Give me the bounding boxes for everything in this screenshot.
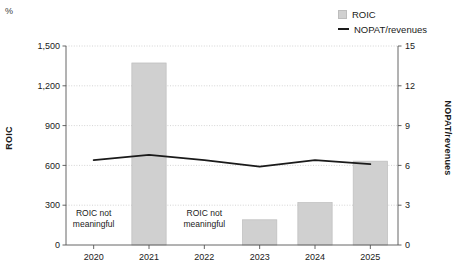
y-tick-label-right-9: 9 [405, 121, 410, 131]
y-tick-label-left-0: 0 [55, 240, 60, 250]
y-tick-label-left-1500: 1,500 [37, 41, 60, 51]
y-tick-label-left-600: 600 [45, 161, 60, 171]
plot-area: 03006009001,2001,50003691215202020212022… [0, 0, 454, 275]
y-tick-label-left-900: 900 [45, 121, 60, 131]
bar-2024 [298, 203, 332, 245]
gridlines-group [66, 46, 398, 205]
x-tick-label-2021: 2021 [139, 252, 159, 262]
annotation-roic-not-meaningful-2020: ROIC notmeaningful [73, 208, 115, 229]
bar-2025 [353, 161, 387, 245]
y-tick-label-right-6: 6 [405, 161, 410, 171]
bar-2023 [243, 220, 277, 245]
annotation-roic-not-meaningful-2022: ROIC notmeaningful [184, 208, 226, 229]
plot-frame [66, 46, 398, 245]
y-tick-label-right-0: 0 [405, 240, 410, 250]
y-tick-label-right-3: 3 [405, 200, 410, 210]
y-tick-label-right-15: 15 [405, 41, 415, 51]
y-tick-label-left-1200: 1,200 [37, 81, 60, 91]
y-tick-label-left-300: 300 [45, 200, 60, 210]
x-tick-label-2020: 2020 [84, 252, 104, 262]
x-tick-label-2025: 2025 [360, 252, 380, 262]
y-tick-label-right-12: 12 [405, 81, 415, 91]
bars-group [132, 63, 388, 245]
x-tick-label-2023: 2023 [250, 252, 270, 262]
chart-container: % ROIC NOPAT/revenues ROIC NOPAT/revenue… [0, 0, 454, 275]
x-tick-label-2022: 2022 [194, 252, 214, 262]
x-tick-label-2024: 2024 [305, 252, 325, 262]
